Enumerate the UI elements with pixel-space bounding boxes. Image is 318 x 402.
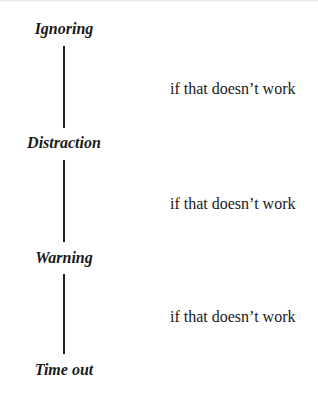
step-time-out: Time out — [0, 361, 128, 379]
connector-line-3 — [63, 274, 65, 354]
step-ignoring: Ignoring — [0, 20, 128, 38]
connector-line-1 — [63, 46, 65, 128]
transition-note-2: if that doesn’t work — [170, 195, 295, 213]
step-distraction: Distraction — [0, 134, 128, 152]
step-warning: Warning — [0, 249, 128, 267]
transition-note-1: if that doesn’t work — [170, 80, 295, 98]
connector-line-2 — [63, 160, 65, 242]
cropped-top-edge — [0, 0, 318, 2]
transition-note-3: if that doesn’t work — [170, 308, 295, 326]
